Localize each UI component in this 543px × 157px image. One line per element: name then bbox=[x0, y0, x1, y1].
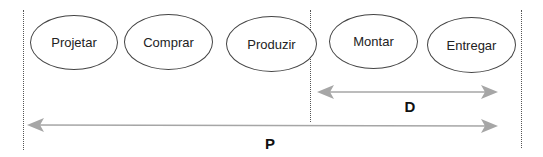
lead-time-diagram: Projetar Comprar Produzir Montar Entrega… bbox=[0, 0, 543, 157]
double-arrow-d bbox=[317, 85, 498, 99]
double-arrow-p bbox=[27, 118, 498, 133]
arrows-layer bbox=[0, 0, 543, 157]
label-p: P bbox=[265, 135, 275, 152]
label-d: D bbox=[405, 98, 416, 115]
